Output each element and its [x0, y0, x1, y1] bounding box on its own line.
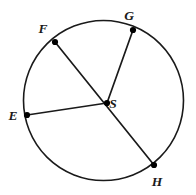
point-marker-f [52, 39, 58, 45]
circle-geometry-figure: F G E H S [0, 0, 196, 195]
point-label-g: G [124, 8, 134, 23]
point-label-s-center: S [109, 96, 117, 111]
point-marker-g [130, 27, 136, 33]
circle-outline [24, 21, 184, 181]
point-marker-h [151, 162, 157, 168]
point-label-f: F [37, 21, 47, 36]
point-marker-e [24, 112, 30, 118]
radius-s-e-segment [27, 103, 107, 115]
circle-diagram-canvas: F G E H S [0, 0, 196, 195]
point-label-e: E [7, 108, 17, 123]
point-label-h: H [151, 174, 163, 189]
radius-s-g-segment [107, 30, 133, 103]
